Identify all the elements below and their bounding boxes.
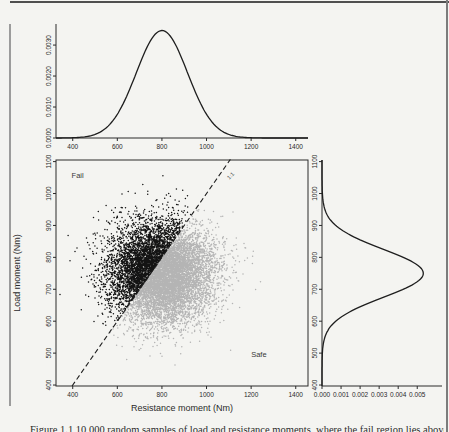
- load-density-curve: [322, 160, 423, 386]
- right-x-tick-label: 0.004: [390, 391, 407, 398]
- scatter-y-tick-label: 600: [45, 315, 52, 326]
- x-axis-title: Resistance moment (Nm): [131, 403, 233, 413]
- right-x-tick-label: 0.005: [409, 391, 426, 398]
- right-y-tick-label: 600: [311, 315, 318, 326]
- top-y-tick-label: 0.0020: [45, 66, 52, 86]
- scatter-y-tick-label: 1000: [45, 186, 52, 201]
- right-y-tick-label: 400: [311, 379, 318, 390]
- scatter-y-tick-label: 700: [45, 283, 52, 294]
- right-y-tick-label: 500: [311, 347, 318, 358]
- top-x-tick-label: 400: [67, 143, 78, 150]
- load-density-plot: 0.0000.0010.0020.0030.0040.0054005006007…: [311, 154, 442, 398]
- resistance-density-plot: 4006008001000120014000.00000.00100.00200…: [45, 24, 308, 150]
- scatter-x-tick-label: 1200: [244, 391, 259, 398]
- top-y-tick-label: 0.0010: [45, 97, 52, 117]
- scanned-figure-page: 4006008001000120014000.00000.00100.00200…: [0, 0, 449, 432]
- top-x-tick-label: 1200: [244, 143, 259, 150]
- top-y-tick-label: 0.0000: [45, 128, 52, 148]
- scatter-y-tick-label: 1100: [45, 154, 52, 168]
- top-x-tick-label: 1000: [199, 143, 214, 150]
- scatter-x-tick-label: 1000: [199, 391, 214, 398]
- right-y-tick-label: 1100: [311, 154, 318, 168]
- scatter-x-tick-label: 600: [112, 391, 123, 398]
- right-x-tick-label: 0.001: [333, 391, 350, 398]
- scatter-y-tick-label: 500: [45, 347, 52, 358]
- right-y-tick-label: 700: [311, 283, 318, 294]
- scatter-y-tick-label: 400: [45, 379, 52, 390]
- region-label-fail: Fail: [72, 171, 84, 180]
- right-y-tick-label: 1000: [311, 186, 318, 201]
- right-x-tick-label: 0.003: [371, 391, 388, 398]
- top-x-tick-label: 600: [112, 143, 123, 150]
- monte-carlo-figure: 4006008001000120014000.00000.00100.00200…: [0, 0, 449, 432]
- scatter-x-tick-label: 1400: [289, 391, 304, 398]
- scatter-x-tick-label: 400: [67, 391, 78, 398]
- resistance-density-curve: [56, 31, 308, 139]
- load-resistance-scatter-plot: 4006008001000120014004005006007008009001…: [12, 154, 308, 413]
- scatter-x-tick-label: 800: [156, 391, 167, 398]
- scatter-y-tick-label: 800: [45, 252, 52, 263]
- scatter-y-tick-label: 900: [45, 220, 52, 231]
- top-y-tick-label: 0.0030: [45, 35, 52, 55]
- right-x-tick-label: 0.000: [314, 391, 331, 398]
- y-axis-title: Load moment (Nm): [12, 234, 22, 312]
- region-label-safe: Safe: [251, 350, 266, 359]
- figure-caption: Figure 1.1 10,000 random samples of load…: [30, 424, 444, 432]
- top-x-tick-label: 1400: [289, 143, 304, 150]
- top-x-tick-label: 800: [156, 143, 167, 150]
- right-y-tick-label: 900: [311, 220, 318, 231]
- one-to-one-label: 1:1: [226, 171, 236, 181]
- right-x-tick-label: 0.002: [352, 391, 369, 398]
- right-y-tick-label: 800: [311, 252, 318, 263]
